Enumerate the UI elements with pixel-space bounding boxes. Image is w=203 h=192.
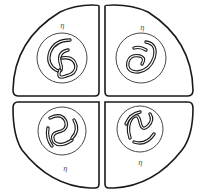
cell-top-right: η (105, 5, 193, 96)
cell-top-left: η (13, 5, 99, 96)
cell-bottom-right: η (105, 102, 193, 188)
cell-bottom-left: η (13, 102, 99, 188)
tetrad-diagram: η η η (0, 0, 203, 192)
